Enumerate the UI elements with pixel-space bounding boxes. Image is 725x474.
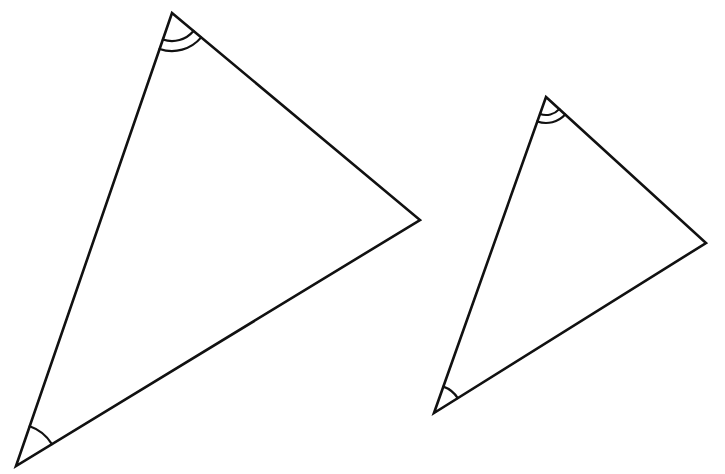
small-triangle — [434, 97, 706, 413]
small-triangle-outline — [434, 97, 706, 413]
large-triangle-bottom-left-angle-arc-1 — [30, 426, 52, 444]
small-triangle-top-angle-arc-2 — [537, 115, 565, 123]
small-triangle-top-angle-arc-1 — [540, 109, 559, 115]
large-triangle-top-angle-arc-1 — [163, 31, 194, 41]
large-triangle — [16, 13, 420, 466]
diagram-svg — [0, 0, 725, 474]
large-triangle-outline — [16, 13, 420, 466]
large-triangle-angle-marks — [30, 31, 201, 444]
small-triangle-bottom-left-angle-arc-1 — [443, 387, 457, 399]
similar-triangles-diagram — [0, 0, 725, 474]
small-triangle-angle-marks — [443, 109, 565, 398]
